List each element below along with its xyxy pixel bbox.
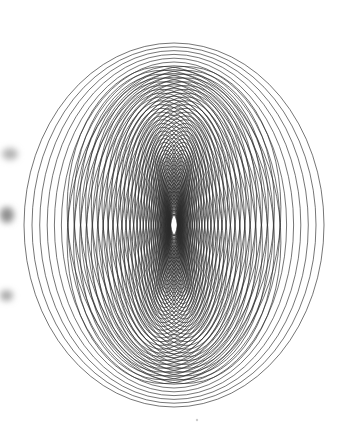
edge-smudge <box>0 207 14 223</box>
stray-speck <box>196 419 198 421</box>
edge-smudge <box>0 290 13 301</box>
ellipse-rosette-figure <box>0 0 362 436</box>
speck-layer <box>196 419 198 421</box>
artwork-canvas <box>0 0 362 436</box>
edge-smudge <box>2 148 18 160</box>
